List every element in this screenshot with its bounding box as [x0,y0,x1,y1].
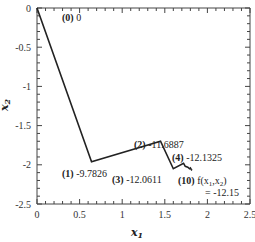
y-tick-label: -1 [23,81,31,92]
x-tick-label: 0 [35,209,40,220]
annotation-step-number: (1) [62,168,74,180]
y-tick-label: 0 [26,3,31,14]
y-tick-label: -0.5 [15,42,31,53]
annotation-step-3: (3) -12.0611 [112,174,162,186]
annotation-step-0: (0) 0 [62,12,81,24]
y-tick-label: -2.5 [15,199,31,210]
annotation-step-number: (3) [112,174,124,186]
annotation-step-1: (1) -9.7826 [62,168,107,180]
annotation-step-number: (0) [62,12,74,24]
annotation-step-2: (2) -11.6887 [134,139,184,151]
y-axis-title: x2 [0,99,12,113]
x-axis-title: x1 [130,226,143,240]
y-tick-label: -2 [23,159,31,170]
y-tick-label: -1.5 [15,120,31,131]
x-tick-label: 1 [120,209,125,220]
x-tick-label: 0.5 [73,209,86,220]
x-tick-label: 1.5 [159,209,172,220]
annotation-step-number: (2) [134,139,146,151]
annotations: (0) 0(1) -9.7826(2) -11.6887(3) -12.0611… [62,12,239,198]
annotation-final-value: = -12.15 [205,187,239,198]
annotation-step-number: (4) [172,152,184,164]
x-tick-label: 2.5 [244,209,255,220]
x-tick-label: 2 [205,209,210,220]
chart: 00.511.522.50-0.5-1-1.5-2-2.5 (0) 0(1) -… [0,0,255,242]
annotation-step-4: (4) -12.1325 [172,152,222,164]
annotation-step-number: (10) [178,175,195,187]
